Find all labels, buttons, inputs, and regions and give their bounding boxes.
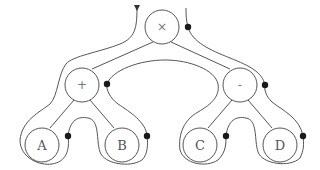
node-d-label: D: [275, 138, 285, 153]
node-minus: -: [223, 68, 257, 102]
edge-times-plus: [92, 42, 153, 69]
node-times-label: ×: [157, 20, 167, 34]
node-c-label: C: [195, 138, 205, 153]
visit-dot-minus: [262, 82, 268, 88]
visit-dots: [65, 24, 306, 139]
edge-minus-C: [208, 100, 232, 128]
visit-dot-a: [65, 133, 71, 139]
diagram-canvas: × + - A B C D: [0, 0, 320, 170]
tour-segment-b-plus: [107, 84, 147, 136]
edge-plus-A: [50, 100, 74, 128]
node-plus-label: +: [77, 78, 87, 92]
visit-dot-d: [300, 133, 306, 139]
node-times: ×: [145, 10, 179, 44]
visit-dot-times: [185, 24, 191, 30]
visit-dot-c: [223, 133, 229, 139]
edge-times-minus: [171, 42, 230, 69]
edge-minus-D: [248, 100, 272, 128]
node-b: B: [105, 128, 139, 162]
euler-tour-diagram: × + - A B C D: [0, 0, 320, 170]
node-minus-label: -: [238, 78, 242, 92]
node-b-label: B: [117, 138, 127, 153]
node-plus: +: [65, 68, 99, 102]
node-a-label: A: [36, 138, 47, 153]
node-c: C: [183, 128, 217, 162]
node-a: A: [25, 128, 59, 162]
node-d: D: [263, 128, 297, 162]
visit-dot-b: [144, 133, 150, 139]
edge-plus-B: [90, 100, 114, 128]
visit-dot-plus: [104, 81, 110, 87]
